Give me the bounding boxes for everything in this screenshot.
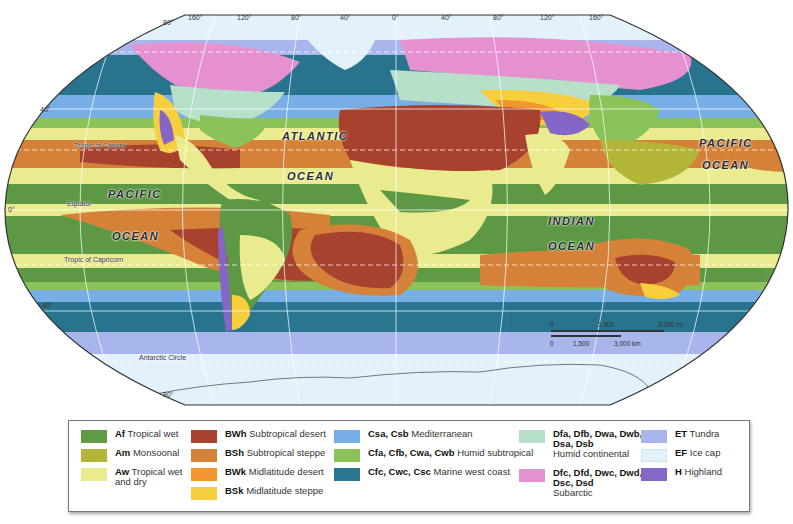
longitude-label: 40° (340, 14, 351, 21)
equator-label: Equator (67, 200, 92, 207)
legend-code: Dfc, Dfd, Dwc, Dwd, Dsc, Dsd (553, 467, 642, 488)
tropic-of-capricorn-label: Tropic of Capricorn (64, 256, 123, 263)
legend-label: Humid continental (553, 448, 629, 459)
swatch (81, 449, 107, 462)
legend-label: Midlatitude desert (249, 466, 324, 477)
legend-item-bsk: BSk Midlatitude steppe (191, 486, 326, 504)
legend-code: Cfa, Cfb, Cwa, Cwb (368, 447, 455, 458)
legend-label: Tropical wet (128, 428, 179, 439)
swatch (191, 487, 217, 500)
legend-label: Monsoonal (133, 447, 179, 458)
scale-tick: 3,000 mi (658, 321, 683, 328)
legend-label: Marine west coast (433, 466, 510, 477)
legend-label: Ice cap (690, 447, 721, 458)
longitude-label: 160° (589, 14, 603, 21)
legend-code: ET (675, 428, 687, 439)
legend-label: Subarctic (553, 487, 593, 498)
swatch (191, 430, 217, 443)
scale-tick: 0 (550, 340, 554, 347)
longitude-label: 160° (188, 14, 202, 21)
swatch (519, 469, 545, 482)
climate-map (0, 0, 793, 415)
legend-label: Midlatitude steppe (246, 485, 323, 496)
legend-item-bwk: BWk Midlatitude desert (191, 467, 326, 485)
legend-code: Csa, Csb (368, 428, 409, 439)
scale-tick: 1,500 (573, 340, 589, 347)
swatch (334, 468, 360, 481)
ocean-label-indian: OCEAN (548, 240, 595, 252)
scale-tick: 3,000 km (614, 340, 641, 347)
legend-code: Am (115, 447, 130, 458)
longitude-label: 80° (163, 19, 174, 26)
latitude-label-40s: 40° (42, 302, 53, 309)
legend-code: EF (675, 447, 687, 458)
legend-label: Highland (685, 466, 723, 477)
longitude-label: 80° (291, 14, 302, 21)
legend-item-bsh: BSh Subtropical steppe (191, 448, 326, 466)
ocean-label-atlantic: OCEAN (287, 170, 334, 182)
swatch (519, 430, 545, 443)
tropic-of-cancer-label: Tropic of Cancer (74, 142, 125, 149)
scale-tick: 0 (550, 321, 554, 328)
legend-item-ef: EF Ice cap (641, 448, 722, 466)
ocean-label-pacific-west: PACIFIC (108, 188, 162, 200)
legend-code: Af (115, 428, 125, 439)
swatch (641, 468, 667, 481)
longitude-label: 120° (237, 14, 251, 21)
ocean-label-pacific-west: OCEAN (112, 230, 159, 242)
legend-label: Mediterranean (411, 428, 472, 439)
legend-code: BSk (225, 485, 243, 496)
swatch (334, 430, 360, 443)
ocean-label-indian: INDIAN (548, 215, 595, 227)
swatch (191, 468, 217, 481)
scale-bar-miles (551, 330, 664, 332)
scale-bar-km (551, 335, 621, 337)
scale-tick: 1,500 (598, 321, 614, 328)
swatch (81, 430, 107, 443)
legend-item-af: Af Tropical wet (81, 429, 201, 447)
legend-label: Subtropical desert (249, 428, 326, 439)
legend-label: Tundra (690, 428, 720, 439)
legend-item-cfc-cwc-csc: Cfc, Cwc, Csc Marine west coast (334, 467, 533, 485)
legend-label: Subtropical steppe (247, 447, 326, 458)
legend-item-h: H Highland (641, 467, 722, 485)
legend-item-cfa-cfb-cwa-cwb: Cfa, Cfb, Cwa, Cwb Humid subtropical (334, 448, 533, 466)
ocean-label-atlantic: ATLANTIC (282, 130, 348, 142)
legend-code: Dfa, Dfb, Dwa, Dwb, Dsa, Dsb (553, 428, 642, 449)
legend-item-bwh: BWh Subtropical desert (191, 429, 326, 447)
latitude-label-40n: 40° (40, 106, 51, 113)
legend-item-aw: Aw Tropical wet and dry (81, 467, 201, 489)
longitude-label: 120° (540, 14, 554, 21)
legend-code: BSh (225, 447, 244, 458)
ocean-label-pacific-east: PACIFIC (699, 137, 753, 149)
antarctic-circle-label: Antarctic Circle (139, 354, 186, 361)
legend-code: BWk (225, 466, 246, 477)
legend-item-et: ET Tundra (641, 429, 722, 447)
legend-code: H (675, 466, 682, 477)
scale-bar: 0 1,500 3,000 mi 0 1,500 3,000 km (548, 320, 698, 350)
longitude-label: 40° (441, 14, 452, 21)
legend-item-humid-continental: Dfa, Dfb, Dwa, Dwb, Dsa, DsbHumid contin… (519, 429, 648, 467)
legend-item-csa-csb: Csa, Csb Mediterranean (334, 429, 533, 447)
ocean-label-pacific-east: OCEAN (702, 159, 749, 171)
legend-item-am: Am Monsoonal (81, 448, 201, 466)
legend-code: Cfc, Cwc, Csc (368, 466, 431, 477)
legend-item-subarctic: Dfc, Dfd, Dwc, Dwd, Dsc, DsdSubarctic (519, 468, 648, 506)
longitude-label: 80° (493, 14, 504, 21)
swatch (191, 449, 217, 462)
swatch (641, 449, 667, 462)
legend-code: BWh (225, 428, 247, 439)
legend: Af Tropical wet Am Monsoonal Aw Tropical… (68, 420, 750, 512)
swatch (641, 430, 667, 443)
swatch (334, 449, 360, 462)
swatch (81, 468, 107, 481)
latitude-label-equator: 0° (8, 206, 15, 213)
longitude-label: 0° (392, 14, 399, 21)
latitude-label-80s: 80° (163, 391, 174, 398)
